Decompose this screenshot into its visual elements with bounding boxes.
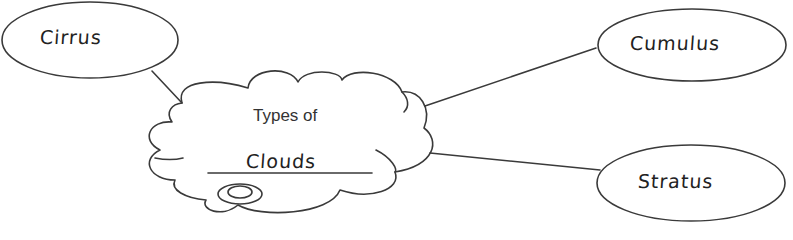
cloud-swirl	[228, 186, 252, 198]
cloud-curl	[402, 92, 408, 112]
center-cloud-shape	[149, 71, 433, 213]
center-prompt-text: Types of	[253, 106, 317, 126]
center-answer-text: Clouds	[245, 150, 317, 172]
edge-center-cumulus	[425, 48, 596, 106]
cloud-curl	[155, 158, 183, 160]
node-cirrus-label: Cirrus	[39, 26, 102, 48]
cloud-swirl	[218, 184, 262, 204]
node-cumulus-label: Cumulus	[629, 32, 721, 54]
cloud-curl	[376, 150, 396, 172]
edge-center-cirrus	[152, 71, 182, 103]
edge-center-stratus	[430, 153, 600, 170]
node-stratus-label: Stratus	[637, 170, 714, 192]
